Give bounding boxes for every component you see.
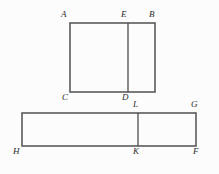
vertex-label-c: C — [62, 93, 68, 102]
geometry-figure: A E B C D L G H K F — [0, 0, 219, 174]
vertex-label-g: G — [191, 100, 198, 109]
vertex-label-d: D — [122, 93, 129, 102]
upper-rectangle — [70, 23, 155, 92]
vertex-label-k: K — [133, 147, 139, 156]
lower-rectangle — [22, 113, 196, 146]
vertex-label-f: F — [193, 147, 199, 156]
vertex-label-e: E — [121, 10, 127, 19]
vertex-label-l: L — [133, 100, 138, 109]
vertex-label-a: A — [61, 10, 67, 19]
vertex-label-b: B — [149, 10, 155, 19]
figure-canvas — [0, 0, 219, 174]
vertex-label-h: H — [13, 147, 20, 156]
